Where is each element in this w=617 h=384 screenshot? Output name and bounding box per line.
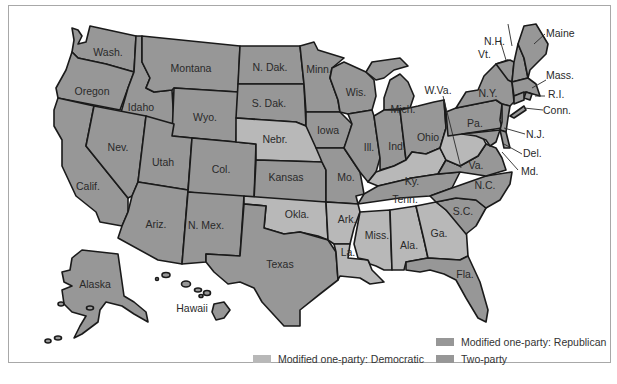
label-vt: Vt. <box>478 48 491 60</box>
aleutian-island <box>55 336 62 340</box>
label-md: Md. <box>521 165 539 177</box>
label-sdak: S. Dak. <box>252 97 286 109</box>
label-ohio: Ohio <box>417 131 439 143</box>
label-minn: Minn. <box>306 63 332 75</box>
label-ky: Ky. <box>405 175 419 187</box>
label-montana: Montana <box>171 62 212 74</box>
aleutian-island <box>45 339 51 343</box>
label-iowa: Iowa <box>317 124 339 136</box>
label-tenn: Tenn. <box>392 193 418 205</box>
label-wis: Wis. <box>346 86 366 98</box>
legend-label-two-party: Two-party <box>461 353 507 365</box>
label-texas: Texas <box>266 258 293 270</box>
label-del: Del. <box>523 147 542 159</box>
label-pa: Pa. <box>467 117 483 129</box>
label-conn: Conn. <box>543 104 571 116</box>
legend-republican: Modified one-party: Republican <box>436 336 606 348</box>
label-nh: N.H. <box>484 35 505 47</box>
us-state-party-map: Wash. Oregon Calif. Idaho Nev. Montana W… <box>0 0 617 384</box>
label-idaho: Idaho <box>128 101 154 113</box>
label-ala: Ala. <box>400 239 418 251</box>
hawaii-island <box>182 281 191 287</box>
label-nj: N.J. <box>526 128 545 140</box>
state-new-jersey[interactable] <box>500 104 510 132</box>
state-alaska[interactable] <box>62 250 148 338</box>
label-ga: Ga. <box>431 227 448 239</box>
label-nc: N.C. <box>475 179 496 191</box>
label-hawaii: Hawaii <box>176 302 208 314</box>
label-ill: Ill. <box>364 141 375 153</box>
label-maine: Maine <box>546 27 575 39</box>
label-fla: Fla. <box>456 268 474 280</box>
label-utah: Utah <box>152 156 174 168</box>
label-ny: N.Y. <box>478 87 497 99</box>
label-nev: Nev. <box>108 141 129 153</box>
states <box>45 24 548 343</box>
label-va: Va. <box>469 159 484 171</box>
state-long-island <box>510 106 526 118</box>
label-ariz: Ariz. <box>146 218 167 230</box>
hawaii-island <box>204 291 211 296</box>
label-oregon: Oregon <box>74 85 109 97</box>
label-okla: Okla. <box>285 208 310 220</box>
label-alaska: Alaska <box>79 278 111 290</box>
aleutian-island <box>58 302 64 306</box>
label-wva: W.Va. <box>424 84 451 96</box>
legend-democratic: Modified one-party: Democratic <box>253 353 424 365</box>
state-florida[interactable] <box>406 256 488 322</box>
label-ind: Ind. <box>388 140 406 152</box>
legend-two-party: Two-party <box>436 353 507 365</box>
label-sc: S.C. <box>453 205 473 217</box>
hawaii-island <box>195 288 202 292</box>
state-delaware[interactable] <box>500 130 510 148</box>
legend-swatch-democratic <box>253 355 271 363</box>
label-mo: Mo. <box>337 171 355 183</box>
label-la: La. <box>341 246 356 258</box>
legend-swatch-republican <box>436 338 454 346</box>
label-wash: Wash. <box>93 46 122 58</box>
hawaii-island <box>162 273 170 278</box>
label-ark: Ark. <box>338 213 357 225</box>
hawaii-island <box>199 295 203 298</box>
label-ri: R.I. <box>548 88 564 100</box>
label-calif: Calif. <box>76 180 100 192</box>
label-mich: Mich. <box>390 103 415 115</box>
legend-label-republican: Modified one-party: Republican <box>461 336 606 348</box>
label-kansas: Kansas <box>268 171 303 183</box>
label-mass: Mass. <box>546 69 574 81</box>
label-wyo: Wyo. <box>193 111 217 123</box>
label-miss: Miss. <box>365 229 390 241</box>
legend-label-democratic: Modified one-party: Democratic <box>278 353 424 365</box>
legend-swatch-two-party <box>436 355 454 363</box>
state-rhode-island[interactable] <box>524 92 532 100</box>
label-nmex: N. Mex. <box>188 219 224 231</box>
aleutian-island <box>87 306 94 310</box>
label-nebr: Nebr. <box>262 133 287 145</box>
label-ndak: N. Dak. <box>252 61 287 73</box>
hawaii-island <box>156 278 159 281</box>
state-hawaii[interactable] <box>212 302 230 320</box>
label-col: Col. <box>212 163 231 175</box>
